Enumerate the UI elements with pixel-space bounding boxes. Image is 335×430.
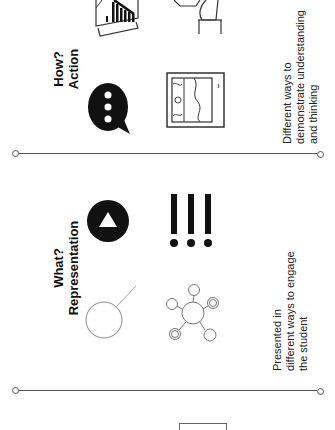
divider-line: [19, 153, 317, 154]
network-nodes-icon: [162, 282, 224, 344]
representation-description: Presented in different ways to engage th…: [271, 231, 313, 371]
play-button-icon: [86, 199, 130, 243]
action-title: How? Action: [51, 19, 85, 119]
magnifier-circle-icon: [84, 284, 140, 340]
representation-title: What? Representation: [51, 198, 85, 338]
exclamation-marks-icon: [168, 194, 216, 248]
landscape-picture-icon: [166, 72, 226, 128]
bar-chart-document-icon: [94, 0, 140, 38]
section-representation: What? Representation: [0, 156, 335, 384]
speech-bubble-icon: [86, 82, 132, 136]
divider-endpoint-right: [317, 388, 324, 395]
action-description: Different ways to demonstrate understand…: [281, 0, 323, 144]
divider-line: [19, 390, 317, 391]
partial-next-section-icon: [179, 423, 227, 430]
divider-endpoint-left: [12, 387, 19, 394]
hand-holding-shape-icon: [172, 0, 226, 34]
section-action: How? Action: [0, 0, 335, 148]
